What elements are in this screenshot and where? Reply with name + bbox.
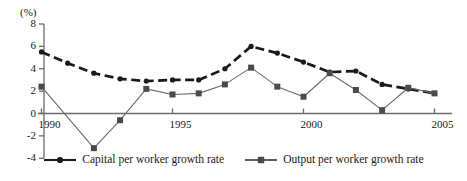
data-point-marker — [65, 61, 70, 66]
data-point-marker — [170, 91, 176, 97]
data-point-marker — [118, 76, 123, 81]
axes-group — [38, 24, 452, 158]
y-tick-label: 0 — [18, 108, 36, 119]
data-point-marker — [117, 117, 123, 123]
legend-label-output: Output per worker growth rate — [283, 154, 424, 166]
data-point-marker — [405, 85, 411, 91]
x-tick-label: 1995 — [170, 119, 192, 130]
y-tick-label: 4 — [18, 63, 36, 74]
x-tick-label: 2000 — [301, 119, 323, 130]
data-point-marker — [380, 82, 385, 87]
y-tick-label: 2 — [18, 85, 36, 96]
data-point-marker — [143, 86, 149, 92]
data-point-marker — [327, 70, 333, 76]
data-point-marker — [249, 44, 254, 49]
data-point-marker — [196, 77, 201, 82]
data-point-marker — [248, 65, 254, 71]
data-point-marker — [91, 71, 96, 76]
data-series-group — [39, 44, 438, 151]
series-line-0 — [42, 46, 435, 93]
data-point-marker — [170, 77, 175, 82]
data-point-marker — [144, 78, 149, 83]
data-point-marker — [379, 107, 385, 113]
y-tick-label: 8 — [18, 18, 36, 29]
data-point-marker — [196, 90, 202, 96]
x-tick-label: 2005 — [432, 119, 454, 130]
growth-rate-line-chart: (%) 86420-2-4 1990199520002005 Capital p… — [0, 0, 467, 181]
circle-marker-icon — [43, 154, 77, 166]
data-point-marker — [274, 84, 280, 90]
data-point-marker — [39, 84, 45, 90]
data-point-marker — [275, 50, 280, 55]
square-marker-icon — [244, 154, 278, 166]
data-point-marker — [222, 81, 228, 87]
legend-label-capital: Capital per worker growth rate — [82, 154, 224, 166]
data-point-marker — [39, 49, 44, 54]
x-tick-label: 1990 — [39, 119, 61, 130]
data-point-marker — [353, 87, 359, 93]
data-point-marker — [432, 90, 438, 96]
data-point-marker — [301, 94, 307, 100]
chart-legend: Capital per worker growth rate Output pe… — [0, 154, 467, 166]
data-point-marker — [222, 66, 227, 71]
legend-entry-capital: Capital per worker growth rate — [43, 154, 224, 166]
data-point-marker — [353, 68, 358, 73]
data-point-marker — [91, 145, 97, 151]
y-tick-label: 6 — [18, 40, 36, 51]
legend-entry-output: Output per worker growth rate — [244, 154, 424, 166]
data-point-marker — [301, 59, 306, 64]
y-tick-label: -2 — [18, 130, 36, 141]
